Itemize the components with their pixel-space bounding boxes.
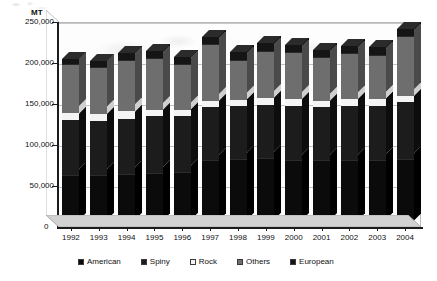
x-axis-tick	[377, 227, 378, 231]
bar-segment-others	[62, 65, 79, 113]
bar-side-face	[107, 54, 114, 227]
bar-side-face	[386, 40, 393, 227]
x-axis-tick	[127, 227, 128, 231]
bar-side-face	[79, 52, 86, 227]
x-axis-tick	[99, 227, 100, 231]
bar-column-1998[interactable]	[230, 52, 247, 227]
y-axis-zero-label: 0	[44, 222, 48, 231]
legend-item-rock[interactable]: Rock	[190, 258, 217, 266]
bar-segment-rock	[285, 99, 302, 106]
bar-segment-rock	[341, 99, 358, 106]
legend-item-others[interactable]: Others	[237, 258, 270, 266]
y-axis-tick-label: 250,000	[25, 18, 54, 26]
bar-segment-others	[313, 58, 330, 101]
bar-segment-american	[341, 161, 358, 227]
bar-segment-american	[174, 173, 191, 227]
bar-segment-spiny	[202, 107, 219, 161]
bar-column-2002[interactable]	[341, 46, 358, 227]
segment-divider	[62, 64, 79, 65]
bar-column-1999[interactable]	[257, 43, 274, 227]
segment-divider	[90, 67, 107, 68]
bar-segment-rock	[118, 111, 135, 118]
bar-segment-spiny	[230, 106, 247, 159]
bar-column-1993[interactable]	[90, 61, 107, 227]
bar-segment-rock	[369, 99, 386, 106]
segment-divider	[230, 159, 247, 160]
bar-column-2001[interactable]	[313, 50, 330, 227]
legend-swatch-rock	[190, 259, 196, 265]
bar-column-2004[interactable]	[397, 29, 414, 227]
bar-front-face	[313, 50, 330, 227]
bar-segment-american	[285, 161, 302, 227]
segment-divider	[341, 53, 358, 54]
bar-front-face	[285, 45, 302, 227]
bar-segment-rock	[62, 113, 79, 120]
x-axis-tick	[182, 227, 183, 231]
bar-front-face	[90, 61, 107, 227]
segment-divider	[118, 60, 135, 61]
y-axis-unit-label: MT	[31, 8, 43, 17]
bar-side-face	[274, 36, 281, 227]
bar-front-face	[369, 47, 386, 227]
legend-label: Spiny	[150, 258, 170, 266]
segment-divider	[230, 60, 247, 61]
bar-segment-spiny	[369, 106, 386, 162]
bar-segment-others	[90, 68, 107, 114]
y-axis-tick-label: 150,000	[25, 100, 54, 108]
bar-segment-others	[118, 61, 135, 112]
segment-divider	[369, 55, 386, 56]
legend-label: Rock	[199, 258, 217, 266]
bar-segment-others	[397, 37, 414, 96]
bar-front-face	[202, 37, 219, 227]
bar-side-face	[219, 30, 226, 227]
legend-item-spiny[interactable]: Spiny	[141, 258, 170, 266]
bar-segment-spiny	[62, 120, 79, 176]
bar-segment-american	[118, 175, 135, 227]
bar-segment-american	[202, 161, 219, 227]
chart-legend: AmericanSpinyRockOthersEuropean	[78, 256, 368, 268]
legend-item-american[interactable]: American	[78, 258, 121, 266]
bar-segment-spiny	[174, 116, 191, 173]
bar-column-1997[interactable]	[202, 37, 219, 227]
x-axis-label-2002: 2002	[336, 233, 362, 242]
x-axis-label-2003: 2003	[364, 233, 390, 242]
bar-side-face	[302, 38, 309, 227]
bar-top-cap	[230, 45, 254, 52]
bar-segment-others	[174, 65, 191, 110]
bar-column-2003[interactable]	[369, 47, 386, 227]
bar-column-1996[interactable]	[174, 57, 191, 227]
y-axis-tick: 200,000	[0, 59, 54, 67]
bar-column-2000[interactable]	[285, 45, 302, 227]
bar-segment-american	[397, 160, 414, 227]
bar-segment-rock	[174, 110, 191, 117]
legend-swatch-american	[78, 259, 84, 265]
y-axis-tick-label: 50,000	[30, 182, 54, 190]
segment-divider	[62, 175, 79, 176]
x-axis-label-1995: 1995	[141, 233, 167, 242]
bar-front-face	[230, 52, 247, 227]
bar-top-cap	[146, 44, 170, 51]
segment-divider	[313, 160, 330, 161]
bar-front-face	[257, 43, 274, 227]
legend-item-european[interactable]: European	[290, 258, 334, 266]
bar-column-1992[interactable]	[62, 59, 79, 227]
bar-segment-american	[146, 174, 163, 227]
bar-top-cap	[313, 43, 337, 50]
x-axis-tick	[266, 227, 267, 231]
bar-column-1995[interactable]	[146, 51, 163, 227]
x-axis-label-1999: 1999	[253, 233, 279, 242]
bar-segment-others	[257, 52, 274, 99]
x-axis-label-1998: 1998	[225, 233, 251, 242]
y-axis-tick: 150,000	[0, 100, 54, 108]
bar-segment-others	[230, 61, 247, 100]
segment-divider	[202, 160, 219, 161]
bar-segment-others	[146, 59, 163, 110]
bar-column-1994[interactable]	[118, 53, 135, 227]
x-axis-label-1996: 1996	[169, 233, 195, 242]
legend-swatch-spiny	[141, 259, 147, 265]
legend-label: European	[299, 258, 334, 266]
bar-segment-american	[369, 161, 386, 227]
bar-side-face	[414, 22, 421, 227]
scan-artifact	[6, 1, 52, 10]
segment-divider	[202, 44, 219, 45]
